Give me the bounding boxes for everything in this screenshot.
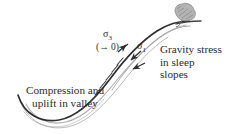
sigma3-label: σ3	[103, 28, 112, 42]
slope-normal-arrow	[133, 63, 145, 69]
sigma3-pointer	[122, 44, 128, 49]
sigma3-tends-to-zero-label: (→ 0)	[96, 42, 119, 52]
sigma1-label: σ1	[137, 40, 146, 54]
boulder-outline	[175, 3, 195, 20]
annotation-left-line-2: uplift in valley	[26, 97, 104, 110]
annotation-right-line-1: Gravity stress	[160, 43, 222, 56]
compression-uplift-annotation: Compression and uplift in valley	[26, 84, 104, 109]
annotation-left-line-1: Compression and	[26, 84, 104, 96]
annotation-right-line-3: slopes	[160, 68, 222, 81]
figure-canvas: σ3 (→ 0) σ1 Compression and uplift in va…	[0, 0, 234, 135]
sigma1-subscript: 1	[142, 46, 146, 54]
sigma3-subscript: 3	[108, 34, 112, 42]
annotation-right-line-2: in sleep	[160, 56, 222, 69]
gravity-stress-annotation: Gravity stress in sleep slopes	[160, 43, 222, 81]
